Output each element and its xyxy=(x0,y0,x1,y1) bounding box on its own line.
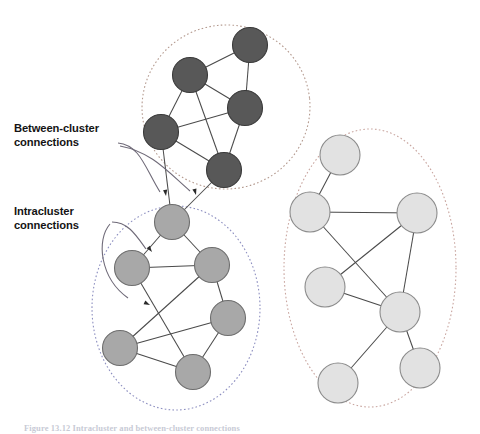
node-top-cluster-t4[interactable] xyxy=(144,115,179,150)
arrowhead-between-cluster-2 xyxy=(192,189,196,195)
node-top-cluster-t2[interactable] xyxy=(173,58,208,93)
arrowhead-intracluster-2 xyxy=(144,300,150,305)
node-right-cluster-r6[interactable] xyxy=(400,348,440,388)
node-right-cluster-r7[interactable] xyxy=(318,363,358,403)
arrowhead-intracluster-1 xyxy=(147,246,152,252)
node-right-cluster-r4[interactable] xyxy=(305,267,345,307)
figure-root: Between-cluster connections Intracluster… xyxy=(0,0,480,434)
between-cluster-connections-label: Between-cluster connections xyxy=(14,122,132,149)
node-top-cluster-t1[interactable] xyxy=(233,28,268,63)
node-middle-cluster-m3[interactable] xyxy=(211,301,246,336)
node-middle-cluster-m0[interactable] xyxy=(155,205,190,240)
intracluster-connections-label: Intracluster connections xyxy=(14,205,126,232)
node-right-cluster-r5[interactable] xyxy=(380,292,420,332)
node-right-cluster-r2[interactable] xyxy=(290,192,330,232)
node-middle-cluster-m2[interactable] xyxy=(195,248,230,283)
node-top-cluster-t3[interactable] xyxy=(228,91,263,126)
node-middle-cluster-m5[interactable] xyxy=(176,355,211,390)
node-top-cluster-t5[interactable] xyxy=(207,153,242,188)
node-right-cluster-r3[interactable] xyxy=(397,193,437,233)
arrowhead-between-cluster-1 xyxy=(163,190,167,196)
nodes-group xyxy=(103,28,441,404)
node-right-cluster-r1[interactable] xyxy=(320,135,360,175)
leader-between-cluster-1 xyxy=(118,143,160,192)
node-middle-cluster-m1[interactable] xyxy=(115,251,150,286)
edge-middle-cluster-m1-m5 xyxy=(132,268,193,372)
node-middle-cluster-m4[interactable] xyxy=(103,331,138,366)
figure-caption: Figure 13.12 Intracluster and between-cl… xyxy=(24,423,454,433)
